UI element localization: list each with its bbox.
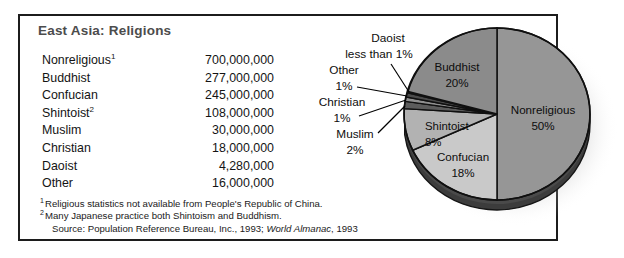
label-shintoist-pct: 8% [425, 136, 441, 148]
footnote-2-marker: 2 [40, 207, 44, 219]
row-label: Other [42, 176, 73, 190]
label-nonreligious-pct: 50% [531, 119, 554, 132]
row-value: 18,000,000 [162, 140, 274, 158]
callout-christian-pct: 1% [333, 111, 351, 125]
callout-daoist-name: Daoist [371, 31, 405, 45]
footnote-marker: 1 [111, 52, 115, 61]
table-row: Nonreligious1 700,000,000 [42, 52, 274, 70]
table-row: Christian 18,000,000 [42, 140, 274, 158]
row-label: Muslim [42, 123, 81, 137]
label-shintoist-name: Shintoist [425, 120, 470, 132]
row-label-cell: Buddhist [42, 70, 162, 88]
row-value: 277,000,000 [162, 70, 274, 88]
row-label: Christian [42, 141, 91, 155]
row-label: Confucian [42, 88, 98, 102]
religion-stats-table: Nonreligious1 700,000,000 Buddhist 277,0… [42, 52, 274, 193]
row-label-cell: Nonreligious1 [42, 52, 162, 70]
table-row: Shintoist2 108,000,000 [42, 105, 274, 123]
row-label-cell: Shintoist2 [42, 105, 162, 123]
row-label: Buddhist [42, 71, 90, 85]
row-label: Daoist [42, 159, 77, 173]
row-value: 4,280,000 [162, 158, 274, 176]
callout-muslim-name: Muslim [336, 127, 374, 141]
row-value: 30,000,000 [162, 122, 274, 140]
pie-chart-svg: Daoist less than 1% Other 1% Christian 1… [300, 18, 624, 242]
footnote-1-text: Religious statistics not available from … [45, 198, 323, 209]
table-row: Buddhist 277,000,000 [42, 70, 274, 88]
row-label-cell: Other [42, 175, 162, 193]
source-prefix: Source: Population Reference Bureau, Inc… [52, 223, 266, 234]
callout-muslim-pct: 2% [346, 143, 364, 157]
leader-daoist [391, 64, 409, 92]
row-label-cell: Daoist [42, 158, 162, 176]
callout-other-name: Other [329, 63, 359, 77]
footnote-2-text: Many Japanese practice both Shintoism an… [45, 210, 282, 221]
callout-other-pct: 1% [335, 79, 353, 93]
table-row: Muslim 30,000,000 [42, 122, 274, 140]
label-buddhist-name: Buddhist [434, 60, 480, 73]
footnote-1-marker: 1 [40, 195, 44, 207]
table-row: Confucian 245,000,000 [42, 87, 274, 105]
row-value: 16,000,000 [162, 175, 274, 193]
leader-muslim [378, 106, 405, 133]
row-label-cell: Confucian [42, 87, 162, 105]
page-title: East Asia: Religions [38, 23, 171, 38]
row-value: 700,000,000 [162, 52, 274, 70]
row-value: 245,000,000 [162, 87, 274, 105]
row-label-cell: Christian [42, 140, 162, 158]
label-nonreligious-name: Nonreligious [511, 103, 576, 116]
table-row: Daoist 4,280,000 [42, 158, 274, 176]
leader-christian [359, 100, 406, 116]
label-buddhist-pct: 20% [445, 76, 468, 89]
callout-daoist-pct: less than 1% [345, 47, 413, 61]
callout-christian-name: Christian [319, 95, 366, 109]
pie-chart: Daoist less than 1% Other 1% Christian 1… [300, 18, 624, 242]
table-row: Other 16,000,000 [42, 175, 274, 193]
row-label: Shintoist [42, 106, 90, 120]
footnote-marker: 2 [90, 105, 94, 114]
row-label-cell: Muslim [42, 122, 162, 140]
label-confucian-name: Confucian [437, 150, 489, 163]
row-label: Nonreligious [42, 53, 111, 67]
row-value: 108,000,000 [162, 105, 274, 123]
label-confucian-pct: 18% [451, 166, 474, 179]
